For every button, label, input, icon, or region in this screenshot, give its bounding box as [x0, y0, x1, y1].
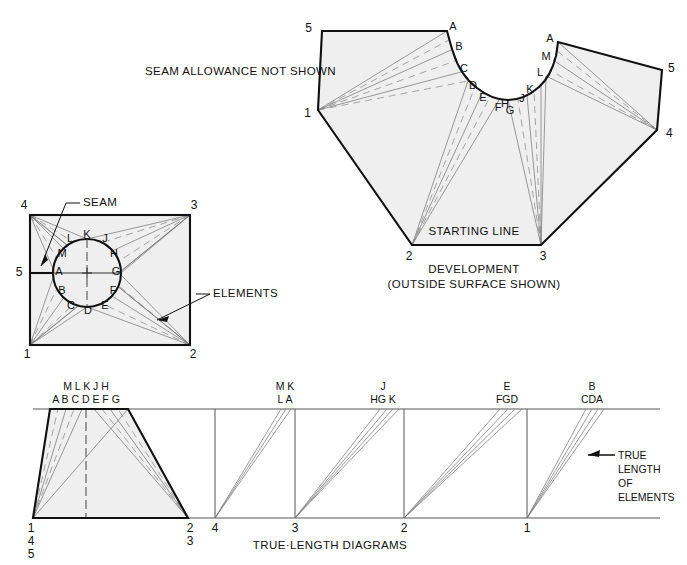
- development-label-5-left: 5: [305, 21, 312, 35]
- plan-circle-label-m: M: [57, 247, 66, 259]
- tld-panel-4: E FGD: [404, 380, 522, 518]
- development-title: DEVELOPMENT: [428, 263, 519, 275]
- tld-panel-1-top-row: M L K J H: [63, 380, 109, 392]
- tld-panel-2: M K L A: [215, 380, 294, 518]
- development-arc-label-l: L: [537, 66, 543, 78]
- plan-circle-label-f: F: [110, 284, 117, 296]
- true-length-callout: TRUE LENGTH OF ELEMENTS: [588, 449, 675, 503]
- development-arc-label-j: J: [519, 92, 525, 104]
- true-length-diagrams: M L K J H A B C D E F G M K L A J HG K: [28, 380, 675, 561]
- plan-label-5: 5: [16, 265, 23, 279]
- tld-panel-3: J HG K: [295, 380, 399, 518]
- seam-callout-label: SEAM: [83, 196, 117, 208]
- true-length-callout-line-2: LENGTH: [618, 463, 661, 475]
- plan-label-3: 3: [191, 198, 198, 212]
- tld-right-label-2: 2: [187, 521, 194, 535]
- tld-origin-label-5: 5: [28, 547, 35, 561]
- development-arc-label-e: E: [479, 91, 486, 103]
- plan-circle-label-a: A: [55, 265, 63, 277]
- true-length-callout-line-4: ELEMENTS: [618, 491, 675, 503]
- plan-circle-label-e: E: [101, 299, 108, 311]
- tld-panel-5-top-row: B: [588, 380, 595, 392]
- tld-panel-4-top-row: E: [503, 380, 510, 392]
- tld-panel-4-bottom-row: FGD: [496, 393, 519, 405]
- development-arc-label-k: K: [526, 83, 534, 95]
- tld-tick-label-3: 3: [292, 521, 299, 535]
- plan-label-4: 4: [21, 198, 28, 212]
- tld-panel-3-bottom-row: HG K: [370, 393, 396, 405]
- plan-circle-label-c: C: [67, 299, 75, 311]
- development-subtitle: (OUTSIDE SURFACE SHOWN): [388, 278, 561, 290]
- drawing-sheet: 5 1 2 3 4 5 A B C D E F G A M L K J H ST…: [0, 0, 687, 565]
- plan-circle-label-d: D: [84, 304, 92, 316]
- development-label-2: 2: [406, 249, 413, 263]
- development-label-4: 4: [666, 126, 673, 140]
- tld-panel-5: B CDA: [527, 380, 604, 518]
- true-length-diagrams-title: TRUE·LENGTH DIAGRAMS: [253, 539, 407, 551]
- transition-piece-plan-view: K L J M H A G B F C D E 4 3 5 1 2 SEAM E…: [16, 196, 279, 361]
- tld-panel-3-top-row: J: [380, 380, 385, 392]
- tld-right-label-3: 3: [187, 534, 194, 548]
- plan-circle-label-l: L: [67, 232, 73, 244]
- development-arc-label-a-left: A: [449, 20, 457, 32]
- plan-circle-label-h: H: [110, 247, 118, 259]
- development-label-3: 3: [540, 249, 547, 263]
- development-arc-label-d: D: [469, 79, 477, 91]
- plan-circle-label-k: K: [83, 228, 91, 240]
- development-arc-label-a-right: A: [546, 32, 554, 44]
- pattern-development: 5 1 2 3 4 5 A B C D E F G A M L K J H ST…: [304, 20, 675, 290]
- tld-panel-5-bottom-row: CDA: [581, 393, 603, 405]
- tld-tick-label-1: 1: [524, 521, 531, 535]
- seam-allowance-note: SEAM ALLOWANCE NOT SHOWN: [145, 65, 336, 77]
- starting-line-note: STARTING LINE: [428, 225, 519, 237]
- development-arc-label-b: B: [455, 40, 462, 52]
- development-arc-label-h: H: [501, 97, 509, 109]
- development-label-5-right: 5: [668, 61, 675, 75]
- elements-callout-label: ELEMENTS: [213, 287, 278, 299]
- tld-panel-2-top-row: M K: [276, 380, 295, 392]
- plan-circle-label-g: G: [112, 265, 121, 277]
- tld-origin-label-1: 1: [28, 521, 35, 535]
- plan-circle-label-j: J: [102, 232, 108, 244]
- tld-tick-label-2: 2: [401, 521, 408, 535]
- tld-panel-1-bottom-row: A B C D E F G: [52, 393, 120, 405]
- tld-origin-label-4: 4: [28, 534, 35, 548]
- tld-tick-label-4: 4: [212, 521, 219, 535]
- true-length-callout-line-1: TRUE: [618, 449, 647, 461]
- plan-label-2: 2: [190, 347, 197, 361]
- tld-panel-1: M L K J H A B C D E F G: [33, 380, 188, 518]
- plan-circle-label-b: B: [58, 284, 65, 296]
- development-arc-label-m: M: [541, 50, 550, 62]
- true-length-callout-line-3: OF: [618, 477, 633, 489]
- development-label-1: 1: [304, 106, 311, 120]
- tld-panel-2-bottom-row: L A: [278, 393, 293, 405]
- development-arc-label-c: C: [460, 62, 468, 74]
- plan-label-1: 1: [24, 347, 31, 361]
